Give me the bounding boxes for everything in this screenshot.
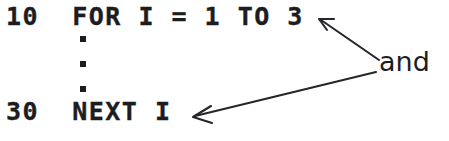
arrow-to-loop-limit-icon — [319, 19, 379, 60]
arrow-to-next-variable-icon — [193, 72, 376, 123]
annotation-label-and: and — [379, 48, 430, 75]
code-line-next-statement: 30 NEXT I — [6, 99, 172, 124]
code-line-for-statement: 10 FOR I = 1 TO 3 — [6, 4, 304, 29]
basic-for-loop-annotated-figure: 10 FOR I = 1 TO 3 30 NEXT I and — [0, 0, 449, 141]
vertical-ellipsis — [80, 36, 88, 98]
ellipsis-dot — [80, 61, 86, 67]
ellipsis-dot — [80, 86, 86, 92]
ellipsis-dot — [80, 36, 86, 42]
